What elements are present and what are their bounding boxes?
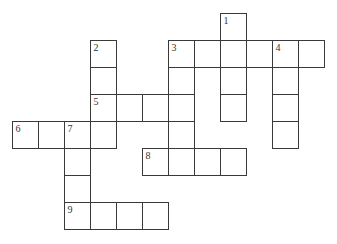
- crossword-cell[interactable]: [298, 40, 325, 68]
- clue-number: 2: [94, 43, 99, 53]
- crossword-cell[interactable]: 2: [90, 40, 117, 68]
- clue-number: 7: [68, 124, 73, 134]
- crossword-grid: 125346798: [0, 0, 337, 244]
- crossword-cell[interactable]: [194, 148, 221, 176]
- crossword-cell[interactable]: [168, 67, 195, 95]
- crossword-cell[interactable]: 9: [64, 202, 91, 230]
- crossword-cell[interactable]: [194, 40, 221, 68]
- crossword-cell[interactable]: [272, 94, 299, 122]
- crossword-cell[interactable]: [168, 121, 195, 149]
- crossword-cell[interactable]: [64, 148, 91, 176]
- clue-number: 4: [276, 43, 281, 53]
- clue-number: 3: [172, 43, 177, 53]
- crossword-cell[interactable]: [220, 40, 247, 68]
- crossword-cell[interactable]: [168, 94, 195, 122]
- crossword-cell[interactable]: [38, 121, 65, 149]
- crossword-cell[interactable]: 5: [90, 94, 117, 122]
- crossword-cell[interactable]: [116, 202, 143, 230]
- clue-number: 1: [224, 16, 229, 26]
- crossword-cell[interactable]: [116, 94, 143, 122]
- clue-number: 6: [16, 124, 21, 134]
- crossword-cell[interactable]: 3: [168, 40, 195, 68]
- crossword-cell[interactable]: 1: [220, 13, 247, 41]
- crossword-cell[interactable]: [220, 67, 247, 95]
- clue-number: 5: [94, 97, 99, 107]
- crossword-cell[interactable]: [272, 67, 299, 95]
- crossword-cell[interactable]: [220, 148, 247, 176]
- crossword-cell[interactable]: [64, 175, 91, 203]
- crossword-cell[interactable]: 8: [142, 148, 169, 176]
- clue-number: 8: [146, 151, 151, 161]
- crossword-cell[interactable]: 6: [12, 121, 39, 149]
- crossword-cell[interactable]: [90, 202, 117, 230]
- crossword-cell[interactable]: [142, 202, 169, 230]
- crossword-cell[interactable]: [272, 121, 299, 149]
- crossword-cell[interactable]: [168, 148, 195, 176]
- crossword-cell[interactable]: 4: [272, 40, 299, 68]
- crossword-cell[interactable]: [90, 121, 117, 149]
- crossword-cell[interactable]: 7: [64, 121, 91, 149]
- crossword-cell[interactable]: [246, 40, 273, 68]
- crossword-cell[interactable]: [90, 67, 117, 95]
- clue-number: 9: [68, 205, 73, 215]
- crossword-cell[interactable]: [220, 94, 247, 122]
- crossword-cell[interactable]: [142, 94, 169, 122]
